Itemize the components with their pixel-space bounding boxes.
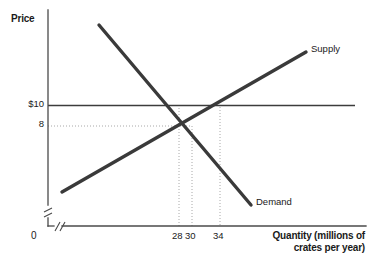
chart-canvas (0, 0, 371, 268)
demand-curve (99, 25, 251, 205)
supply-curve (62, 52, 306, 192)
x-tick-label-34: 34 (213, 231, 224, 242)
supply-demand-chart: Price Quantity (millions ofcrates per ye… (0, 0, 371, 268)
y-axis-break-icon (44, 208, 52, 217)
y-tick-label-10: $10 (14, 99, 44, 110)
x-tick-label-28: 28 (172, 231, 183, 242)
x-axis-title: Quantity (millions ofcrates per year) (245, 230, 365, 253)
origin-label: 0 (31, 230, 37, 242)
x-axis-title-line2: crates per year) (294, 242, 365, 253)
axis-break-marks (44, 208, 65, 231)
guide-lines (48, 107, 220, 226)
demand-curve-label: Demand (256, 197, 292, 208)
y-axis-title: Price (11, 13, 34, 25)
x-tick-label-30: 30 (185, 231, 196, 242)
supply-curve-label: Supply (311, 44, 340, 55)
y-tick-label-8: 8 (14, 119, 44, 130)
x-axis-title-line1: Quantity (millions of (273, 230, 365, 241)
